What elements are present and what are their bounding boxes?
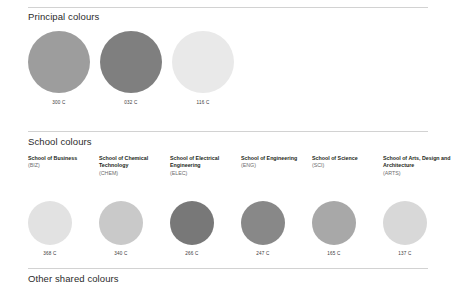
colour-swatch-165c: [312, 201, 356, 245]
pantone-code-label: 300 C: [28, 100, 90, 105]
colour-swatch-116c: [172, 31, 234, 93]
brand-colour-guide-page: Principal colours 300 C 032 C 116 C Scho…: [0, 0, 453, 295]
school-colours-row: School of Business (BIZ) 368 C School of…: [28, 155, 432, 265]
school-abbreviation-label: (ARTS): [383, 170, 451, 177]
colour-swatch-032c: [100, 31, 162, 93]
school-abbreviation-label: (ELEC): [170, 170, 238, 177]
colour-swatch-137c: [383, 201, 427, 245]
divider-top: [28, 7, 428, 8]
school-colour-item-sci: School of Science (SCI) 165 C: [312, 155, 380, 170]
section-title-school-colours: School colours: [28, 136, 92, 147]
pantone-code-label: 032 C: [100, 100, 162, 105]
colour-swatch-340c: [99, 201, 143, 245]
pantone-code-label: 340 C: [99, 251, 143, 256]
pantone-code-label: 165 C: [312, 251, 356, 256]
colour-swatch-247c: [241, 201, 285, 245]
colour-swatch-368c: [28, 201, 72, 245]
pantone-code-label: 116 C: [172, 100, 234, 105]
pantone-code-label: 137 C: [383, 251, 427, 256]
school-abbreviation-label: (ENG): [241, 162, 309, 169]
school-colour-item-elec: School of Electrical Engineering (ELEC) …: [170, 155, 238, 177]
school-colour-item-eng: School of Engineering (ENG) 247 C: [241, 155, 309, 170]
principal-swatch-item: 300 C: [28, 31, 90, 105]
colour-swatch-300c: [28, 31, 90, 93]
school-colour-item-biz: School of Business (BIZ) 368 C: [28, 155, 96, 170]
school-colour-item-arts: School of Arts, Design and Architecture …: [383, 155, 451, 177]
divider-school-colours: [28, 131, 428, 132]
section-title-other-shared-colours: Other shared colours: [28, 273, 119, 284]
school-name-label: School of Arts, Design and Architecture: [383, 155, 451, 170]
school-name-label: School of Engineering: [241, 155, 309, 162]
principal-swatch-item: 116 C: [172, 31, 234, 105]
school-abbreviation-label: (BIZ): [28, 162, 96, 169]
principal-colours-row: 300 C 032 C 116 C: [28, 31, 428, 111]
school-colour-item-chem: School of Chemical Technology (CHEM) 340…: [99, 155, 167, 177]
school-abbreviation-label: (CHEM): [99, 170, 167, 177]
pantone-code-label: 368 C: [28, 251, 72, 256]
school-name-label: School of Science: [312, 155, 380, 162]
school-abbreviation-label: (SCI): [312, 162, 380, 169]
school-name-label: School of Business: [28, 155, 96, 162]
colour-swatch-266c: [170, 201, 214, 245]
school-name-label: School of Electrical Engineering: [170, 155, 238, 170]
school-name-label: School of Chemical Technology: [99, 155, 167, 170]
divider-other-shared-colours: [28, 268, 428, 269]
section-title-principal-colours: Principal colours: [28, 11, 99, 22]
principal-swatch-item: 032 C: [100, 31, 162, 105]
pantone-code-label: 247 C: [241, 251, 285, 256]
pantone-code-label: 266 C: [170, 251, 214, 256]
